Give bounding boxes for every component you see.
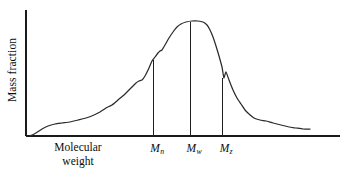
x-axis-label-line1: Molecular (54, 141, 101, 153)
marker-label-mn-symbol: M (150, 142, 160, 154)
chart-figure: Mass fraction Molecular weight Mn Mw Mz (0, 0, 350, 179)
marker-label-mz-subscript: z (230, 147, 233, 156)
marker-label-mw: Mw (187, 142, 202, 154)
curve-group (30, 21, 310, 136)
axes-group (26, 10, 340, 136)
distribution-curve (30, 21, 310, 136)
marker-label-mz: Mz (220, 142, 233, 154)
markers-group (153, 22, 222, 136)
x-axis-label: Molecular weight (36, 141, 120, 168)
x-axis-label-line2: weight (36, 155, 120, 169)
marker-label-mn-subscript: n (160, 147, 164, 156)
marker-label-mw-subscript: w (196, 147, 201, 156)
marker-label-mw-symbol: M (187, 142, 197, 154)
marker-label-mn: Mn (150, 142, 164, 154)
marker-label-mz-symbol: M (220, 142, 230, 154)
